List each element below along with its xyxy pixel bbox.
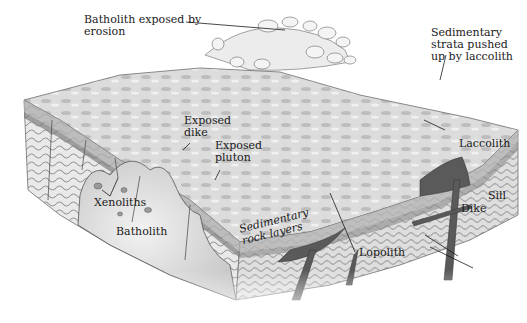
label-xenoliths: Xenoliths: [94, 197, 146, 209]
label-batholith-exposed-by-erosion: Batholith exposed by erosion: [84, 14, 201, 38]
label-sill: Sill: [488, 190, 506, 202]
label-batholith: Batholith: [116, 226, 167, 238]
label-laccolith: Laccolith: [459, 138, 510, 150]
label-lopolith: Lopolith: [359, 247, 405, 259]
label-exposed-pluton: Exposed pluton: [215, 140, 262, 164]
geology-block-diagram: Batholith exposed by erosion Sedimentary…: [0, 0, 527, 323]
label-exposed-dike: Exposed dike: [184, 115, 231, 139]
label-sedimentary-strata-pushed-up: Sedimentary strata pushed up by laccolit…: [431, 27, 513, 63]
label-dike: Dike: [461, 203, 487, 215]
